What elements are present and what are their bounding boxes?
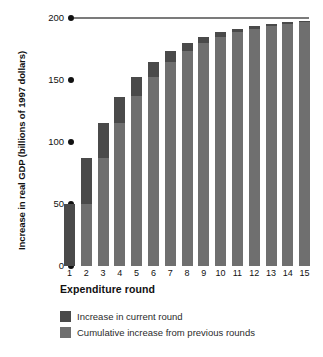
x-axis-title: Expenditure round [60, 283, 155, 295]
bar-segment-cumulative [131, 96, 142, 266]
x-axis-tick-label: 14 [280, 268, 296, 278]
bar-round-1 [64, 204, 75, 266]
bar-segment-cumulative [215, 37, 226, 266]
bar-segment-current-round [182, 43, 193, 51]
bar-round-14 [282, 22, 293, 266]
bar-round-15 [299, 21, 310, 266]
x-axis-tick-label: 8 [179, 268, 195, 278]
bar-round-10 [215, 32, 226, 266]
bar-round-11 [232, 29, 243, 266]
x-axis-tick-label: 12 [246, 268, 262, 278]
bar-segment-cumulative [182, 51, 193, 266]
bar-segment-current-round [148, 62, 159, 77]
legend-item: Increase in current round [60, 310, 320, 323]
bar-segment-cumulative [98, 158, 109, 267]
x-axis-tick-label: 3 [95, 268, 111, 278]
y-axis-tick-label: 100 [22, 136, 64, 148]
bar-segment-cumulative [165, 62, 176, 266]
bar-segment-current-round [114, 97, 125, 123]
bar-segment-cumulative [299, 22, 310, 266]
bar-segment-current-round [64, 204, 75, 266]
x-axis-tick-label: 1 [61, 268, 77, 278]
x-axis-tick-label: 7 [162, 268, 178, 278]
bar-round-5 [131, 77, 142, 266]
legend-swatch-icon [60, 327, 71, 338]
x-axis-tick-label: 9 [196, 268, 212, 278]
x-axis-tick-label: 4 [112, 268, 128, 278]
x-axis-tick-label: 2 [78, 268, 94, 278]
x-axis-tick-label: 15 [297, 268, 313, 278]
x-axis-tick-label: 13 [263, 268, 279, 278]
bar-round-3 [98, 123, 109, 266]
bar-segment-current-round [98, 123, 109, 158]
bar-round-12 [249, 26, 260, 266]
plot-area [61, 18, 313, 266]
legend-item: Cumulative increase from previous rounds [60, 326, 320, 339]
x-axis-tick-label: 10 [213, 268, 229, 278]
y-axis-tick-label: 200 [22, 12, 64, 24]
bar-segment-cumulative [81, 204, 92, 266]
bar-segment-cumulative [249, 29, 260, 266]
x-axis-tick-label: 5 [129, 268, 145, 278]
bar-round-7 [165, 51, 176, 266]
bar-round-9 [198, 37, 209, 266]
x-axis-tick-label: 6 [145, 268, 161, 278]
bar-segment-cumulative [282, 24, 293, 266]
x-axis-tick-label: 11 [229, 268, 245, 278]
bar-round-8 [182, 43, 193, 266]
bar-segment-cumulative [266, 26, 277, 266]
legend-swatch-icon [60, 311, 71, 322]
bar-round-6 [148, 62, 159, 266]
bar-segment-current-round [165, 51, 176, 62]
y-axis-tick-label: 50 [22, 198, 64, 210]
legend-label: Cumulative increase from previous rounds [77, 327, 255, 338]
y-axis-tick-label: 150 [22, 74, 64, 86]
y-axis-title: Increase in real GDP (billions of 1997 d… [16, 26, 27, 276]
legend-label: Increase in current round [77, 311, 183, 322]
chart-legend: Increase in current roundCumulative incr… [60, 310, 320, 342]
bar-segment-cumulative [198, 43, 209, 266]
bar-round-2 [81, 158, 92, 267]
bar-segment-cumulative [114, 123, 125, 266]
bar-segment-cumulative [148, 77, 159, 266]
bar-segment-current-round [81, 158, 92, 205]
bar-segment-current-round [131, 77, 142, 97]
bar-segment-cumulative [232, 32, 243, 266]
expenditure-multiplier-chart: Increase in real GDP (billions of 1997 d… [0, 0, 323, 357]
y-axis-tick-label: 0 [22, 260, 64, 272]
bar-round-4 [114, 97, 125, 267]
bar-round-13 [266, 24, 277, 266]
